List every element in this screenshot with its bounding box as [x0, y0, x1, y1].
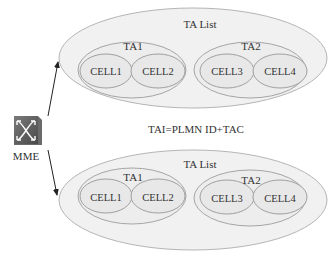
cell-label: CELL2: [142, 66, 174, 77]
ta1-label-2: TA1: [123, 171, 142, 183]
cell-label: CELL1: [90, 66, 122, 77]
arrow-to-top-list: [48, 62, 58, 116]
ta-list-title-1: TA List: [183, 18, 216, 30]
ta2-label-1: TA2: [241, 40, 260, 52]
ta2-label-2: TA2: [241, 174, 260, 186]
cell-label: CELL4: [264, 66, 296, 77]
cell-label: CELL2: [142, 192, 174, 203]
cell-label: CELL1: [90, 192, 122, 203]
router-switch-icon: [14, 116, 42, 145]
cell-label: CELL4: [264, 193, 296, 204]
cell-label: CELL3: [211, 193, 243, 204]
mme-label: MME: [13, 150, 39, 162]
ta1-label-1: TA1: [123, 40, 142, 52]
arrow-to-bottom-list: [48, 150, 57, 195]
tai-formula: TAI=PLMN ID+TAC: [148, 123, 244, 135]
ta-list-title-2: TA List: [183, 158, 216, 170]
cell-label: CELL3: [211, 66, 243, 77]
